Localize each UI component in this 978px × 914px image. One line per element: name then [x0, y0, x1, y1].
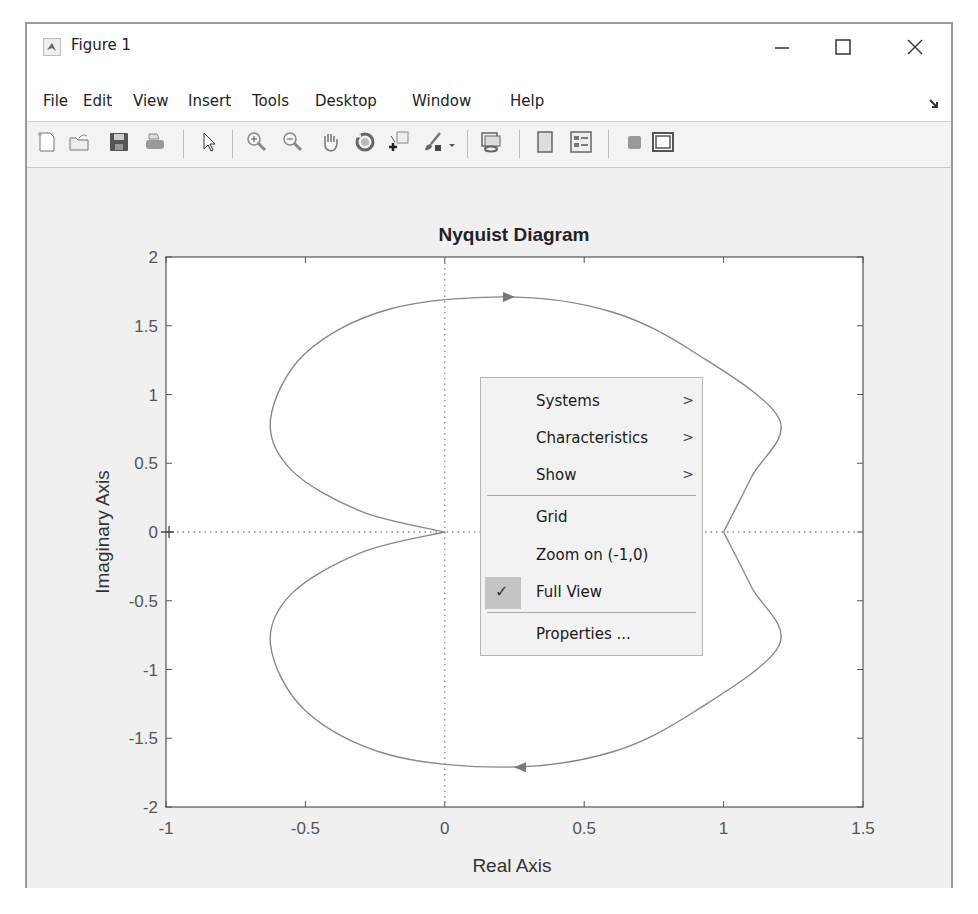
x-tick-label: 0.5 — [572, 819, 596, 838]
chart-title: Nyquist Diagram — [439, 224, 590, 245]
ctx-item-systems[interactable]: Systems > — [481, 384, 702, 420]
y-tick-label: 0.5 — [134, 454, 158, 473]
ctx-item-characteristics[interactable]: Characteristics > — [481, 421, 702, 457]
x-tick-label: -0.5 — [291, 819, 320, 838]
y-tick-label: 2 — [149, 248, 158, 267]
menu-separator — [487, 612, 696, 613]
y-tick-label: -2 — [143, 798, 158, 817]
x-tick-label: -1 — [158, 819, 173, 838]
ctx-item-grid[interactable]: Grid — [481, 500, 702, 536]
checkmark-icon: ✓ — [485, 577, 521, 609]
ctx-label: Show — [536, 466, 576, 484]
ctx-item-full-view[interactable]: ✓ Full View — [481, 575, 702, 611]
y-axis-label: Imaginary Axis — [92, 470, 113, 594]
y-tick-label: -0.5 — [129, 592, 158, 611]
x-tick-label: 0 — [440, 819, 449, 838]
ctx-item-zoom-critical[interactable]: Zoom on (-1,0) — [481, 538, 702, 574]
menu-separator — [487, 495, 696, 496]
x-axis-label: Real Axis — [472, 855, 551, 876]
ctx-item-properties[interactable]: Properties ... — [481, 617, 702, 653]
submenu-arrow-icon: > — [682, 466, 694, 482]
ctx-label: Grid — [536, 508, 567, 526]
ctx-label: Characteristics — [536, 429, 648, 447]
y-tick-label: -1 — [143, 661, 158, 680]
ctx-item-show[interactable]: Show > — [481, 458, 702, 494]
context-menu: Systems > Characteristics > Show > Grid … — [480, 377, 703, 656]
x-tick-label: 1.5 — [851, 819, 875, 838]
y-tick-label: -1.5 — [129, 729, 158, 748]
submenu-arrow-icon: > — [682, 392, 694, 408]
y-tick-label: 0 — [149, 523, 158, 542]
x-tick-label: 1 — [719, 819, 728, 838]
y-tick-label: 1 — [149, 386, 158, 405]
y-tick-label: 1.5 — [134, 317, 158, 336]
ctx-label: Properties ... — [536, 625, 631, 643]
ctx-label: Systems — [536, 392, 600, 410]
ctx-label: Zoom on (-1,0) — [536, 546, 648, 564]
ctx-label: Full View — [536, 583, 602, 601]
submenu-arrow-icon: > — [682, 429, 694, 445]
